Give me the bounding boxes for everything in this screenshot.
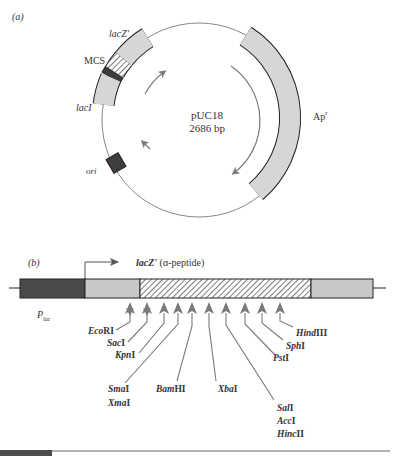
site-xmai: XmaI — [107, 398, 130, 408]
transcription-start-arrow — [85, 262, 118, 280]
site-acci: AccI — [276, 416, 296, 426]
panel-a-label: (a) — [12, 11, 24, 23]
mcs-dark-stripe — [111, 72, 114, 78]
plasmid-size: 2686 bp — [189, 122, 225, 134]
site-bamhi: BamHI — [155, 384, 186, 394]
lacz-direction-arrow — [145, 72, 164, 94]
laci-gene-band — [104, 78, 111, 105]
site-sali: SalI — [277, 403, 294, 413]
lacz-end-segment — [311, 279, 373, 298]
plac-segment — [20, 279, 85, 298]
site-sphi: SphI — [286, 341, 305, 351]
site-ecori: EcoRI — [87, 326, 114, 336]
footer-bar — [0, 450, 52, 456]
lacz-label: lacZ' — [109, 28, 130, 39]
mcs-segment — [140, 279, 311, 298]
site-saci: SacI — [107, 338, 125, 348]
lacz-gene-band — [124, 38, 148, 59]
plasmid-name: pUC18 — [191, 109, 223, 121]
ampr-direction-arrow — [231, 66, 260, 173]
restriction-site-leaders — [116, 313, 293, 400]
ori-label: ori — [86, 166, 97, 176]
ori-direction-arrow — [143, 142, 150, 149]
mcs-band — [114, 59, 123, 72]
laci-label: lacI — [76, 102, 92, 113]
site-smai: SmaI — [108, 384, 129, 394]
ampr-gene-band — [246, 36, 291, 192]
site-kpni: KpnI — [114, 350, 135, 360]
site-hincii: HincII — [276, 429, 304, 439]
ampr-label: Apr — [313, 109, 328, 122]
lacz-start-segment — [85, 279, 140, 298]
restriction-site-arrowheads — [125, 302, 285, 314]
panel-b-label: (b) — [28, 257, 40, 269]
plac-label: Plac — [36, 309, 51, 322]
lacz-peptide-label: lacZ' (α-peptide) — [136, 257, 204, 269]
site-xbai: XbaI — [217, 384, 238, 394]
plasmid-figure: (a) lacZ' MCS lacI ori Apr pUC18 2686 bp… — [0, 0, 397, 456]
site-hindiii: HindIII — [295, 328, 327, 338]
mcs-label: MCS — [84, 55, 105, 66]
site-psti: PstI — [273, 353, 289, 363]
